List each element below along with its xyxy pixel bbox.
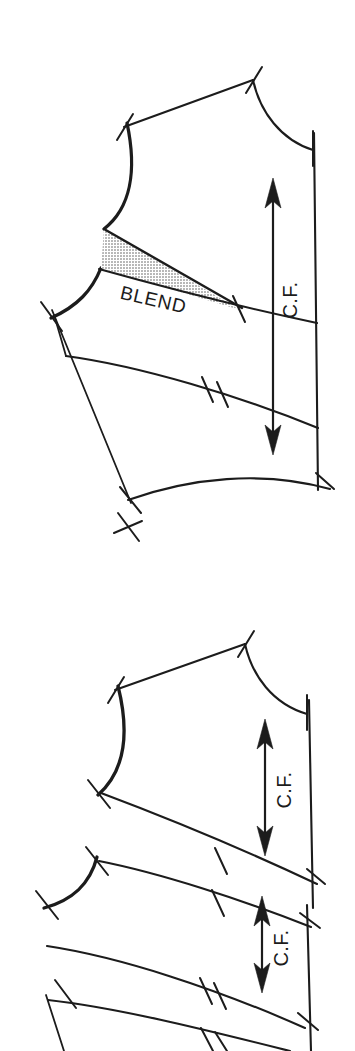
canvas-background <box>0 0 355 1051</box>
center-front-label-upper: C.F. <box>279 281 301 318</box>
pattern-figure: C.F. BLEND <box>0 0 355 1051</box>
center-front-label-lower-b: C.F. <box>270 929 292 966</box>
center-front-label-lower-a: C.F. <box>273 771 295 808</box>
pattern-drawing-canvas: C.F. BLEND <box>0 0 355 1051</box>
